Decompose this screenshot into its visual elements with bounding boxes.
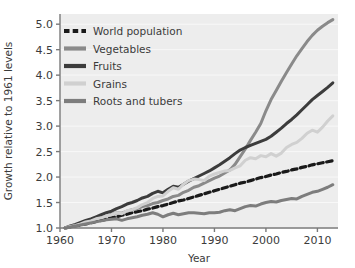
y-tick-label-3.5: 3.5 — [36, 95, 54, 108]
legend-label-grains: Grains — [93, 78, 127, 90]
x-tick-label-2010: 2010 — [303, 234, 331, 247]
y-axis-title: Growth relative to 1961 levels — [2, 42, 14, 201]
chart-figure: 1.01.52.02.53.03.54.04.55.01960197019801… — [0, 0, 355, 268]
y-tick-label-1.5: 1.5 — [36, 197, 54, 210]
legend-label-world-population: World population — [93, 25, 182, 37]
x-tick-label-2000: 2000 — [252, 234, 280, 247]
y-tick-label-2.5: 2.5 — [36, 146, 54, 159]
y-tick-label-4.0: 4.0 — [36, 69, 54, 82]
x-tick-label-1990: 1990 — [200, 234, 228, 247]
legend-label-fruits: Fruits — [93, 60, 122, 72]
y-tick-label-5.0: 5.0 — [36, 18, 54, 31]
y-tick-label-4.5: 4.5 — [36, 44, 54, 57]
x-tick-label-1980: 1980 — [149, 234, 177, 247]
x-tick-label-1970: 1970 — [97, 234, 125, 247]
growth-relative-to-1961-line-chart: 1.01.52.02.53.03.54.04.55.01960197019801… — [0, 0, 355, 268]
x-axis-title: Year — [187, 252, 211, 264]
y-tick-label-3.0: 3.0 — [36, 120, 54, 133]
legend-label-roots-and-tubers: Roots and tubers — [93, 95, 182, 107]
legend-label-vegetables: Vegetables — [93, 43, 151, 55]
y-tick-label-2.0: 2.0 — [36, 171, 54, 184]
x-tick-label-1960: 1960 — [46, 234, 74, 247]
